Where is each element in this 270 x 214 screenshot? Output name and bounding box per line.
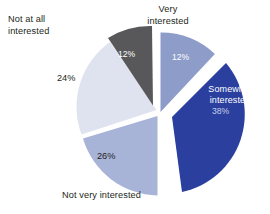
label-not-at-all-line1: Not at all (8, 14, 74, 26)
label-not-very-interested: Not very interested (62, 190, 141, 202)
label-somewhat-interested: Somewhat interested (196, 84, 264, 106)
value-very-interested: 12% (172, 52, 189, 62)
label-very-interested-line2: interested (138, 16, 198, 28)
label-very-interested: Very interested (138, 4, 198, 27)
label-not-at-all-interested: Not at all interested (8, 14, 74, 37)
label-somewhat-line1: Somewhat (196, 84, 264, 95)
value-somewhat-interested: 38% (212, 106, 229, 116)
label-not-at-all-line2: interested (8, 26, 74, 38)
label-somewhat-line2: interested (196, 95, 264, 106)
value-not-very-interested: 26% (97, 151, 115, 161)
value-exploded-gray: 12% (118, 49, 135, 59)
value-not-at-all-interested: 24% (57, 73, 75, 83)
label-very-interested-line1: Very (138, 4, 198, 16)
pie-chart: Very interested Not at all interested No… (0, 0, 270, 214)
